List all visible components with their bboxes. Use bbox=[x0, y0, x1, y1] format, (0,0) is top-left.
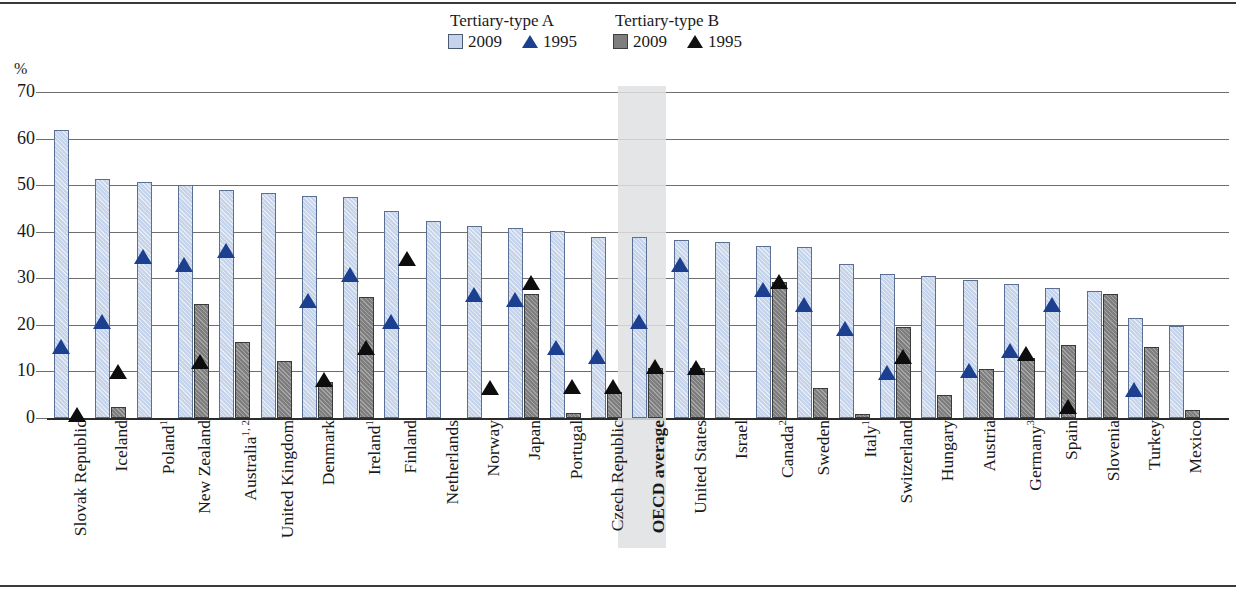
bar-tertiary-a-2009[interactable] bbox=[1169, 326, 1184, 418]
bar-tertiary-b-2009[interactable] bbox=[1185, 410, 1200, 418]
marker-tertiary-b-1995[interactable] bbox=[357, 340, 375, 355]
bar-tertiary-a-2009[interactable] bbox=[880, 274, 895, 418]
bar-tertiary-a-2009[interactable] bbox=[54, 130, 69, 418]
bar-tertiary-b-2009[interactable] bbox=[813, 388, 828, 418]
bar-tertiary-a-2009[interactable] bbox=[178, 185, 193, 418]
marker-tertiary-b-1995[interactable] bbox=[563, 379, 581, 394]
bar-group[interactable] bbox=[178, 92, 207, 418]
marker-tertiary-a-1995[interactable] bbox=[465, 287, 483, 302]
marker-tertiary-b-1995[interactable] bbox=[109, 364, 127, 379]
bar-group[interactable] bbox=[426, 92, 455, 418]
bar-tertiary-b-2009[interactable] bbox=[937, 395, 952, 418]
bar-group[interactable] bbox=[1004, 92, 1033, 418]
marker-tertiary-a-1995[interactable] bbox=[671, 257, 689, 272]
marker-tertiary-b-1995[interactable] bbox=[770, 274, 788, 289]
bar-tertiary-a-2009[interactable] bbox=[261, 193, 276, 418]
bar-tertiary-b-2009[interactable] bbox=[359, 297, 374, 418]
bar-group[interactable] bbox=[1169, 92, 1198, 418]
bar-tertiary-a-2009[interactable] bbox=[219, 190, 234, 418]
bar-group[interactable] bbox=[467, 92, 496, 418]
bar-tertiary-b-2009[interactable] bbox=[524, 294, 539, 418]
marker-tertiary-a-1995[interactable] bbox=[299, 293, 317, 308]
bar-tertiary-a-2009[interactable] bbox=[1087, 291, 1102, 418]
marker-tertiary-a-1995[interactable] bbox=[175, 257, 193, 272]
bar-group[interactable] bbox=[384, 92, 413, 418]
marker-tertiary-b-1995[interactable] bbox=[522, 275, 540, 290]
bar-tertiary-b-2009[interactable] bbox=[1144, 347, 1159, 418]
bar-group[interactable] bbox=[261, 92, 290, 418]
bar-group[interactable] bbox=[880, 92, 909, 418]
bar-group[interactable] bbox=[839, 92, 868, 418]
bar-tertiary-a-2009[interactable] bbox=[715, 242, 730, 418]
bar-tertiary-a-2009[interactable] bbox=[508, 228, 523, 418]
marker-tertiary-b-1995[interactable] bbox=[687, 360, 705, 375]
bar-tertiary-a-2009[interactable] bbox=[921, 276, 936, 418]
bar-group[interactable] bbox=[591, 92, 620, 418]
bar-group[interactable] bbox=[756, 92, 785, 418]
bar-group[interactable] bbox=[550, 92, 579, 418]
bar-tertiary-b-2009[interactable] bbox=[772, 282, 787, 418]
bar-tertiary-b-2009[interactable] bbox=[896, 327, 911, 418]
bar-group[interactable] bbox=[963, 92, 992, 418]
bar-tertiary-a-2009[interactable] bbox=[963, 280, 978, 418]
marker-tertiary-b-1995[interactable] bbox=[604, 379, 622, 394]
marker-tertiary-a-1995[interactable] bbox=[960, 363, 978, 378]
marker-tertiary-a-1995[interactable] bbox=[382, 314, 400, 329]
bar-tertiary-b-2009[interactable] bbox=[277, 361, 292, 418]
bar-tertiary-b-2009[interactable] bbox=[566, 413, 581, 418]
bar-group[interactable] bbox=[632, 92, 661, 418]
bar-group[interactable] bbox=[1045, 92, 1074, 418]
bar-tertiary-b-2009[interactable] bbox=[979, 369, 994, 418]
marker-tertiary-b-1995[interactable] bbox=[398, 251, 416, 266]
bar-group[interactable] bbox=[921, 92, 950, 418]
marker-tertiary-a-1995[interactable] bbox=[506, 292, 524, 307]
marker-tertiary-a-1995[interactable] bbox=[134, 249, 152, 264]
bar-tertiary-a-2009[interactable] bbox=[756, 246, 771, 418]
marker-tertiary-b-1995[interactable] bbox=[191, 354, 209, 369]
bar-tertiary-b-2009[interactable] bbox=[318, 382, 333, 418]
bar-group[interactable] bbox=[1087, 92, 1116, 418]
bar-tertiary-a-2009[interactable] bbox=[797, 247, 812, 418]
bar-group[interactable] bbox=[137, 92, 166, 418]
marker-tertiary-b-1995[interactable] bbox=[68, 407, 86, 422]
bar-group[interactable] bbox=[508, 92, 537, 418]
bar-tertiary-b-2009[interactable] bbox=[855, 414, 870, 418]
bar-tertiary-b-2009[interactable] bbox=[648, 368, 663, 418]
bar-group[interactable] bbox=[95, 92, 124, 418]
bar-group[interactable] bbox=[219, 92, 248, 418]
marker-tertiary-a-1995[interactable] bbox=[547, 340, 565, 355]
bar-tertiary-b-2009[interactable] bbox=[607, 392, 622, 418]
marker-tertiary-b-1995[interactable] bbox=[315, 372, 333, 387]
bar-group[interactable] bbox=[1128, 92, 1157, 418]
bar-tertiary-b-2009[interactable] bbox=[1020, 358, 1035, 418]
bar-tertiary-a-2009[interactable] bbox=[95, 179, 110, 419]
marker-tertiary-a-1995[interactable] bbox=[1125, 382, 1143, 397]
marker-tertiary-a-1995[interactable] bbox=[878, 365, 896, 380]
bar-group[interactable] bbox=[54, 92, 83, 418]
bar-tertiary-b-2009[interactable] bbox=[235, 342, 250, 418]
bar-tertiary-b-2009[interactable] bbox=[1103, 294, 1118, 418]
bar-group[interactable] bbox=[343, 92, 372, 418]
marker-tertiary-a-1995[interactable] bbox=[1043, 297, 1061, 312]
bar-tertiary-a-2009[interactable] bbox=[343, 197, 358, 418]
marker-tertiary-a-1995[interactable] bbox=[836, 321, 854, 336]
bar-tertiary-a-2009[interactable] bbox=[137, 182, 152, 418]
bar-group[interactable] bbox=[674, 92, 703, 418]
marker-tertiary-a-1995[interactable] bbox=[630, 314, 648, 329]
bar-tertiary-a-2009[interactable] bbox=[426, 221, 441, 418]
bar-group[interactable] bbox=[302, 92, 331, 418]
marker-tertiary-a-1995[interactable] bbox=[93, 314, 111, 329]
bar-group[interactable] bbox=[715, 92, 744, 418]
bar-tertiary-a-2009[interactable] bbox=[1128, 318, 1143, 418]
marker-tertiary-b-1995[interactable] bbox=[646, 359, 664, 374]
marker-tertiary-a-1995[interactable] bbox=[52, 339, 70, 354]
bar-group[interactable] bbox=[797, 92, 826, 418]
marker-tertiary-b-1995[interactable] bbox=[481, 380, 499, 395]
bar-tertiary-b-2009[interactable] bbox=[111, 407, 126, 418]
bar-tertiary-b-2009[interactable] bbox=[690, 368, 705, 418]
marker-tertiary-a-1995[interactable] bbox=[588, 349, 606, 364]
marker-tertiary-a-1995[interactable] bbox=[341, 267, 359, 282]
marker-tertiary-a-1995[interactable] bbox=[795, 297, 813, 312]
marker-tertiary-b-1995[interactable] bbox=[1059, 399, 1077, 414]
marker-tertiary-a-1995[interactable] bbox=[217, 243, 235, 258]
